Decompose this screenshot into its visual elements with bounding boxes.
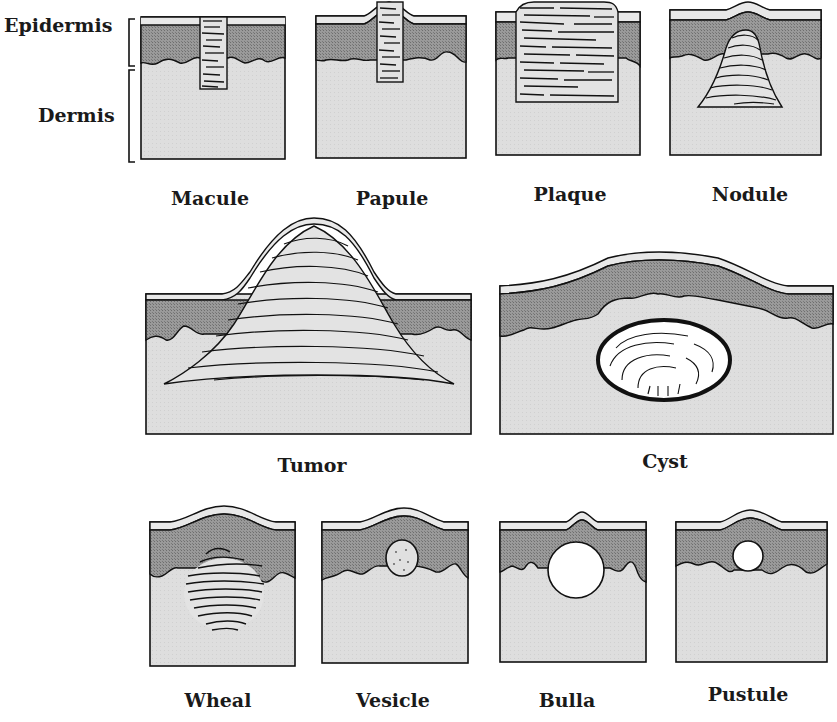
plaque-diagram [494,0,644,160]
cyst-label: Cyst [605,450,725,472]
bulla-diagram [498,502,648,666]
cyst-diagram [498,248,836,438]
papule-diagram [314,0,469,160]
wheal-diagram [148,502,298,668]
macule-label: Macule [150,187,270,209]
plaque-label: Plaque [510,183,630,205]
vesicle-label: Vesicle [333,689,453,711]
layer-brackets [125,18,139,164]
papule-label: Papule [332,187,452,209]
tumor-label: Tumor [252,454,372,476]
wheal-label: Wheal [158,689,278,711]
epidermis-label: Epidermis [4,14,112,36]
tumor-diagram [144,214,474,436]
macule-diagram [140,15,288,161]
pustule-label: Pustule [688,683,808,705]
bulla-label: Bulla [507,689,627,711]
nodule-label: Nodule [690,183,810,205]
dermis-label: Dermis [38,104,115,126]
pustule-diagram [674,502,829,668]
nodule-diagram [668,0,824,160]
vesicle-diagram [320,502,470,668]
